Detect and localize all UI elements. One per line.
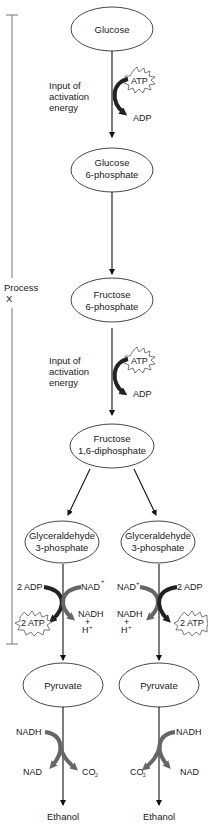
svg-text:Glucose: Glucose: [95, 157, 130, 168]
right-nad-nadh-curve: [140, 587, 158, 618]
left-2adp: 2 ADP: [17, 582, 43, 592]
svg-text:Input of: Input of: [49, 80, 81, 91]
left-2atp: 2 ATP: [21, 618, 45, 628]
right-ferment-nad: NAD: [180, 767, 200, 777]
svg-text:Glyceraldehyde: Glyceraldehyde: [29, 530, 95, 541]
node-ethanol-left: Ethanol: [47, 811, 79, 822]
process-label: Process: [4, 282, 39, 293]
svg-text:+: +: [136, 580, 140, 586]
arrow-f16dp-g3p-right: [134, 469, 156, 515]
node-g3p-right: Glyceraldehyde 3-phosphate: [121, 521, 195, 563]
fermentation-diagram: Process X Glucose Input of activation en…: [0, 0, 208, 826]
svg-text:6-phosphate: 6-phosphate: [86, 301, 139, 312]
svg-text:Fructose: Fructose: [94, 289, 131, 300]
right-h: H: [121, 625, 128, 635]
step1-annotation: Input of activation energy: [49, 80, 89, 113]
right-co2: CO: [130, 767, 144, 777]
step3-atp-star: ATP: [124, 347, 155, 373]
arrow-f16dp-g3p-left: [68, 469, 90, 515]
svg-text:energy: energy: [49, 102, 78, 113]
right-branch-cofactors: NAD + NADH + H + 2 ADP 2 ATP: [117, 580, 208, 636]
svg-text:Glyceraldehyde: Glyceraldehyde: [125, 530, 191, 541]
left-nad: NAD: [81, 582, 101, 592]
right-ferment-nadh: NADH: [176, 727, 202, 737]
svg-text:energy: energy: [49, 377, 78, 388]
node-fructose-1-6-diphosphate: Fructose 1,6-diphosphate: [70, 424, 154, 468]
right-co2-curve: [145, 745, 160, 768]
right-nadh-nad-curve: [160, 732, 175, 766]
svg-text:Fructose: Fructose: [94, 433, 131, 444]
step3-annotation: Input of activation energy: [49, 355, 89, 388]
right-nadh: NADH: [117, 609, 143, 619]
left-nadh: NADH: [78, 609, 104, 619]
right-nad: NAD: [117, 582, 137, 592]
left-co2-curve: [60, 745, 75, 768]
right-adp-atp-curve: [159, 587, 177, 620]
step3-adp: ADP: [133, 389, 152, 399]
node-g3p-left: Glyceraldehyde 3-phosphate: [25, 521, 99, 563]
left-h: H: [82, 625, 89, 635]
node-fructose-6-phosphate: Fructose 6-phosphate: [71, 278, 153, 322]
left-co2: CO: [82, 767, 96, 777]
left-ferment-nad: NAD: [23, 767, 43, 777]
svg-text:3-phosphate: 3-phosphate: [36, 542, 89, 553]
left-nadh-nad-curve: [45, 732, 60, 766]
svg-text:1,6-diphosphate: 1,6-diphosphate: [78, 445, 146, 456]
svg-text:+: +: [128, 624, 132, 630]
left-ferment-nadh: NADH: [16, 727, 42, 737]
svg-text:Pyruvate: Pyruvate: [140, 680, 178, 691]
right-2atp: 2 ATP: [180, 618, 204, 628]
node-pyruvate-right: Pyruvate: [119, 663, 199, 707]
node-glucose-6-phosphate: Glucose 6-phosphate: [71, 148, 153, 192]
left-branch-cofactors: 2 ADP 2 ATP NAD + NADH + H +: [15, 578, 105, 636]
node-glucose: Glucose: [71, 7, 153, 51]
svg-text:Glucose: Glucose: [95, 24, 130, 35]
right-ferment-cofactors: NADH CO 2 NAD: [130, 727, 202, 778]
node-ethanol-right: Ethanol: [143, 811, 175, 822]
svg-text:6-phosphate: 6-phosphate: [86, 169, 139, 180]
svg-text:activation: activation: [49, 366, 89, 377]
step1-adp: ADP: [133, 113, 152, 123]
svg-text:2: 2: [143, 772, 146, 778]
process-label-x: X: [6, 293, 13, 304]
svg-text:2: 2: [95, 772, 98, 778]
right-2adp: 2 ADP: [177, 582, 203, 592]
step1-atp-star: ATP: [124, 67, 155, 93]
svg-text:+: +: [89, 624, 93, 630]
svg-text:Input of: Input of: [49, 355, 81, 366]
svg-text:ATP: ATP: [131, 356, 148, 366]
svg-text:Pyruvate: Pyruvate: [44, 680, 82, 691]
left-ferment-cofactors: NADH NAD CO 2: [16, 727, 98, 778]
svg-text:activation: activation: [49, 91, 89, 102]
svg-text:ATP: ATP: [131, 76, 148, 86]
svg-text:3-phosphate: 3-phosphate: [132, 542, 185, 553]
node-pyruvate-left: Pyruvate: [23, 663, 103, 707]
left-adp-atp-curve: [44, 587, 62, 620]
svg-text:+: +: [101, 578, 105, 584]
